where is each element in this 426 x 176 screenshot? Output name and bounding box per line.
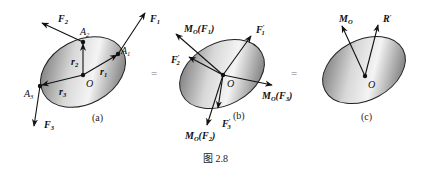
point-O <box>363 74 367 78</box>
label-F2-prime: F′2 <box>170 53 181 66</box>
equals-sign-1: = <box>151 67 157 79</box>
label-F3: F3 <box>43 119 55 131</box>
panel-a: O A1 A2 A3 r1 r2 r3 F1 F2 F3 (a) <box>23 13 160 131</box>
equals-sign-2: = <box>291 67 297 79</box>
label-MO-F2: MO(F2) <box>184 130 215 142</box>
label-F3-prime: F′3 <box>221 117 232 130</box>
panel-b: O MO(F1) F′1 F′2 MO(F3) MO(F2) F′3 (b) <box>168 23 293 142</box>
sublabel-b: (b) <box>233 110 245 122</box>
label-MO-F3: MO(F3) <box>261 90 292 102</box>
panel-c: O MO R′ (c) <box>311 13 417 123</box>
point-A3 <box>38 84 42 88</box>
figure-caption: 图 2.8 <box>203 153 228 164</box>
label-F1-prime: F′1 <box>255 23 265 36</box>
label-O: O <box>227 78 234 89</box>
label-F2: F2 <box>57 13 69 25</box>
label-A2: A2 <box>79 26 90 38</box>
point-A1 <box>116 52 120 56</box>
label-A1: A1 <box>120 45 130 57</box>
label-MO-F1: MO(F1) <box>183 23 214 35</box>
label-O: O <box>368 79 375 90</box>
label-A3: A3 <box>23 88 34 100</box>
point-A2 <box>81 40 85 44</box>
sublabel-c: (c) <box>361 111 372 123</box>
force-system-diagram: O A1 A2 A3 r1 r2 r3 F1 F2 F3 (a) = O MO(… <box>0 0 426 176</box>
force-F2 <box>42 23 83 42</box>
label-MO: MO <box>338 13 353 25</box>
point-O <box>81 73 85 77</box>
force-F3 <box>34 86 40 126</box>
rigid-body <box>311 23 417 117</box>
label-O: O <box>86 78 93 89</box>
label-F1: F1 <box>149 13 160 25</box>
sublabel-a: (a) <box>92 112 103 124</box>
label-R-prime: R′ <box>382 13 392 24</box>
point-O <box>221 73 225 77</box>
